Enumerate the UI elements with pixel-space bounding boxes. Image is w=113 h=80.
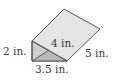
label-hypotenuse: 4 in.	[51, 37, 74, 49]
label-base: 3.5 in.	[35, 63, 69, 75]
label-length: 5 in.	[85, 47, 108, 59]
label-height: 2 in.	[3, 45, 26, 57]
triangular-prism-diagram: 2 in. 4 in. 5 in. 3.5 in.	[0, 0, 113, 80]
